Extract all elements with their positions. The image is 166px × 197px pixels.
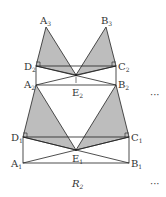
label-e2: E2 (72, 87, 83, 99)
label-d2: D2 (24, 61, 36, 73)
label-a1: A1 (10, 158, 22, 170)
shaded-triangle-lower-left (23, 85, 76, 150)
caption-r2: R2 (71, 178, 84, 190)
label-b1: B1 (131, 158, 142, 170)
label-a3: A3 (39, 15, 51, 27)
label-a2: A2 (23, 79, 35, 91)
label-c1: C1 (131, 132, 142, 144)
label-b3: B3 (101, 15, 112, 27)
label-b2: B2 (118, 79, 129, 91)
geometry-figure: A3 B3 D2 C2 A2 B2 E2 D1 C1 A1 B1 E1 R2 ·… (0, 0, 166, 197)
shaded-triangle-lower-right (76, 85, 129, 150)
label-c2: C2 (118, 61, 130, 73)
ellipsis-upper: ··· (150, 89, 160, 100)
label-d1: D1 (11, 132, 23, 144)
ellipsis-lower: ··· (150, 178, 160, 189)
e2-point (75, 74, 77, 76)
e1-point (75, 149, 77, 151)
label-e1: E1 (72, 153, 83, 165)
